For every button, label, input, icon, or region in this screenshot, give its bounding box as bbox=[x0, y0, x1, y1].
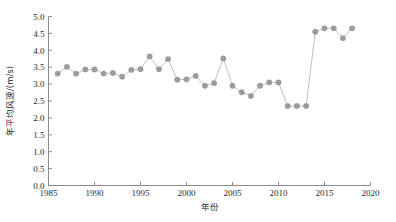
data-point-marker bbox=[331, 26, 336, 31]
data-point-marker bbox=[64, 64, 69, 69]
x-axis-tick-marks bbox=[49, 182, 371, 186]
y-tick-label: 1.5 bbox=[33, 130, 45, 140]
data-point-marker bbox=[119, 74, 124, 79]
data-point-marker bbox=[184, 77, 189, 82]
data-point-marker bbox=[165, 56, 170, 61]
y-axis-title: 年平均风速/(m/s) bbox=[5, 66, 15, 136]
y-tick-label: 2.5 bbox=[33, 96, 45, 106]
data-point-marker bbox=[322, 26, 327, 31]
data-point-marker bbox=[202, 83, 207, 88]
x-tick-label: 2010 bbox=[270, 188, 289, 198]
data-point-marker bbox=[349, 26, 354, 31]
y-axis-tick-labels: 0.00.51.01.52.02.53.03.54.04.55.0 bbox=[33, 12, 45, 191]
data-point-marker bbox=[248, 93, 253, 98]
data-point-marker bbox=[83, 67, 88, 72]
data-point-marker bbox=[303, 103, 308, 108]
data-point-marker bbox=[285, 103, 290, 108]
data-point-marker bbox=[101, 71, 106, 76]
data-point-marker bbox=[267, 80, 272, 85]
y-tick-label: 5.0 bbox=[33, 12, 45, 22]
data-point-marker bbox=[110, 70, 115, 75]
data-point-marker bbox=[55, 71, 60, 76]
chart-plot-area: 0.00.51.01.52.02.53.03.54.04.55.0 198519… bbox=[0, 0, 396, 222]
x-axis-tick-labels: 19851990199520002005201020152020 bbox=[40, 188, 381, 198]
data-point-marker bbox=[239, 90, 244, 95]
data-point-marker bbox=[129, 67, 134, 72]
data-series-line bbox=[58, 28, 352, 106]
data-series-markers bbox=[55, 26, 355, 109]
y-tick-label: 3.0 bbox=[33, 79, 45, 89]
data-point-marker bbox=[313, 29, 318, 34]
x-axis-title: 年份 bbox=[201, 202, 219, 212]
x-tick-label: 2000 bbox=[178, 188, 197, 198]
data-point-marker bbox=[276, 80, 281, 85]
x-tick-label: 1995 bbox=[132, 188, 151, 198]
data-point-marker bbox=[340, 35, 345, 40]
x-tick-label: 2020 bbox=[362, 188, 381, 198]
data-point-marker bbox=[193, 73, 198, 78]
y-tick-label: 4.0 bbox=[33, 46, 45, 56]
x-tick-label: 1985 bbox=[40, 188, 59, 198]
data-point-marker bbox=[156, 67, 161, 72]
data-point-marker bbox=[138, 67, 143, 72]
y-axis-tick-marks bbox=[49, 17, 53, 186]
y-tick-label: 4.5 bbox=[33, 29, 45, 39]
data-point-marker bbox=[230, 83, 235, 88]
x-tick-label: 1990 bbox=[86, 188, 105, 198]
x-tick-label: 2015 bbox=[316, 188, 335, 198]
x-tick-label: 2005 bbox=[224, 188, 243, 198]
data-point-marker bbox=[92, 67, 97, 72]
y-tick-label: 1.0 bbox=[33, 147, 45, 157]
data-point-marker bbox=[147, 54, 152, 59]
data-point-marker bbox=[211, 80, 216, 85]
data-point-marker bbox=[175, 77, 180, 82]
data-point-marker bbox=[73, 71, 78, 76]
y-tick-label: 2.0 bbox=[33, 113, 45, 123]
data-point-marker bbox=[257, 83, 262, 88]
data-point-marker bbox=[221, 56, 226, 61]
wind-speed-chart: 0.00.51.01.52.02.53.03.54.04.55.0 198519… bbox=[0, 0, 396, 222]
y-tick-label: 3.5 bbox=[33, 62, 45, 72]
y-tick-label: 0.5 bbox=[33, 164, 45, 174]
data-point-marker bbox=[294, 103, 299, 108]
